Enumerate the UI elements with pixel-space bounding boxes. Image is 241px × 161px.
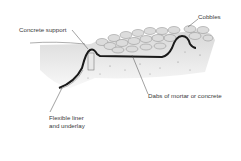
cross-section-illustration <box>0 0 241 161</box>
label-flexible-liner-line1: Flexible liner <box>49 114 84 121</box>
label-dabs-of-mortar: Dabs of mortar or concrete <box>148 92 222 99</box>
ground-line <box>30 42 85 44</box>
label-flexible-liner-line2: and underlay <box>49 122 85 129</box>
concrete-support <box>88 53 94 70</box>
label-concrete-support: Concrete support <box>19 26 66 33</box>
label-cobbles: Cobbles <box>198 13 221 20</box>
